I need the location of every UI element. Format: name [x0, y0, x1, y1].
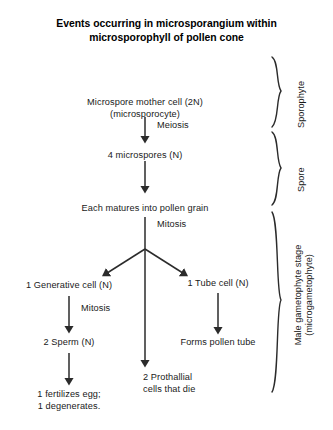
node-generative-cell: 1 Generative cell (N) [26, 280, 112, 292]
node-2-sperm: 2 Sperm (N) [43, 337, 94, 349]
node-prothallial-cells: 2 Prothallial cells that die [143, 372, 195, 395]
diagram-connectors [0, 0, 333, 430]
bracket-spore [272, 132, 281, 205]
node-tube-cell: 1 Tube cell (N) [187, 278, 248, 290]
arrow-label-mitosis-upper: Mitosis [157, 219, 186, 231]
bracket-label-sporophyte: Sporophyte [296, 81, 307, 128]
bracket-label-male-gametophyte: Male gametophyte stage (microgametophyte… [293, 210, 315, 380]
node-4-microspores: 4 microspores (N) [108, 150, 183, 162]
arrow-branch-generative [104, 249, 145, 275]
node-microspore-mother-cell: Microspore mother cell (2N) (microsporoc… [87, 97, 203, 120]
bracket-label-spore: Spore [296, 167, 307, 192]
node-forms-pollen-tube: Forms pollen tube [180, 337, 255, 349]
node-fertilizes-degenerates: 1 fertilizes egg; 1 degenerates. [37, 389, 100, 412]
bracket-gametophyte [272, 212, 281, 392]
arrow-label-mitosis-lower: Mitosis [81, 303, 110, 315]
bracket-sporophyte [272, 57, 281, 127]
arrow-label-meiosis: Meiosis [157, 120, 189, 132]
arrow-branch-tube [145, 249, 186, 275]
diagram-canvas: Events occurring in microsporangium with… [0, 0, 333, 430]
node-pollen-grain: Each matures into pollen grain [82, 203, 209, 215]
